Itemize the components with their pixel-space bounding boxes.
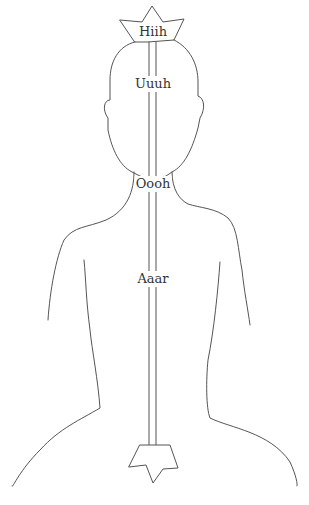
head-outline-right [162,40,204,178]
right-torso-outline [207,262,298,486]
right-shoulder-outline [172,172,250,325]
label-crown: Hiih [138,24,168,40]
left-torso-outline [12,260,100,487]
label-heart: Aaar [136,271,169,287]
left-shoulder-outline [48,172,134,320]
label-head: Uuuh [134,76,172,92]
head-outline [104,42,144,178]
label-throat: Oooh [135,176,172,192]
root-star-icon [129,445,178,483]
